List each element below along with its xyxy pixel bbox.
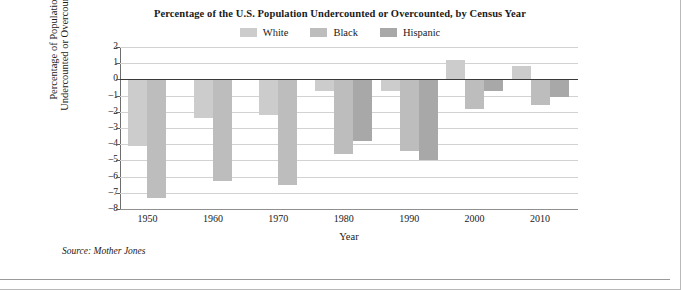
legend-swatch-hispanic bbox=[380, 28, 397, 37]
y-tick-mark bbox=[116, 193, 120, 194]
bar-black-1960 bbox=[213, 79, 232, 181]
bar-white-1970 bbox=[259, 79, 278, 115]
y-axis-title-line2: Undercounted or Overcounted bbox=[59, 0, 70, 135]
legend-label-hispanic: Hispanic bbox=[403, 27, 440, 38]
bar-black-1950 bbox=[147, 79, 166, 197]
footer-divider bbox=[0, 279, 670, 280]
bar-hispanic-1990 bbox=[419, 79, 438, 160]
gridline bbox=[120, 177, 578, 178]
bar-black-2000 bbox=[465, 79, 484, 108]
x-tick-label: 2000 bbox=[453, 213, 497, 224]
y-axis-tick-labels: 210–1–2–3–4–5–6–7–8 bbox=[88, 47, 118, 209]
x-tick-label: 1990 bbox=[387, 213, 431, 224]
bar-black-2010 bbox=[531, 79, 550, 105]
y-tick-mark bbox=[116, 160, 120, 161]
y-tick-label: –7 bbox=[92, 188, 118, 198]
y-tick-mark bbox=[116, 177, 120, 178]
legend-label-black: Black bbox=[333, 27, 358, 38]
y-tick-mark bbox=[116, 47, 120, 48]
y-tick-mark bbox=[116, 96, 120, 97]
source-note: Source: Mother Jones bbox=[62, 246, 146, 256]
plot-area bbox=[120, 47, 578, 209]
bar-black-1980 bbox=[334, 79, 353, 154]
y-tick-mark bbox=[116, 63, 120, 64]
x-tick-label: 1960 bbox=[191, 213, 235, 224]
x-tick-label: 1950 bbox=[125, 213, 169, 224]
gridline bbox=[120, 63, 578, 64]
legend-item-hispanic: Hispanic bbox=[380, 27, 440, 38]
y-tick-label: 0 bbox=[92, 75, 118, 85]
y-tick-label: –5 bbox=[92, 156, 118, 166]
bar-black-1990 bbox=[400, 79, 419, 150]
y-tick-label: –4 bbox=[92, 139, 118, 149]
legend-label-white: White bbox=[263, 27, 289, 38]
y-tick-label: –2 bbox=[92, 107, 118, 117]
legend-swatch-white bbox=[240, 28, 257, 37]
bar-hispanic-2010 bbox=[550, 79, 569, 97]
bar-black-1970 bbox=[278, 79, 297, 184]
y-tick-mark bbox=[116, 209, 120, 210]
y-tick-label: –8 bbox=[92, 204, 118, 214]
chart-figure: Percentage of the U.S. Population Underc… bbox=[0, 0, 681, 290]
bar-white-1960 bbox=[194, 79, 213, 118]
bar-white-2000 bbox=[446, 60, 465, 79]
y-tick-mark bbox=[116, 144, 120, 145]
y-tick-label: 1 bbox=[92, 58, 118, 68]
gridline bbox=[120, 193, 578, 194]
legend-swatch-black bbox=[310, 28, 327, 37]
y-tick-label: 2 bbox=[92, 42, 118, 52]
chart-title: Percentage of the U.S. Population Underc… bbox=[0, 8, 680, 19]
x-tick-label: 1980 bbox=[322, 213, 366, 224]
bar-white-1990 bbox=[381, 79, 400, 90]
y-tick-mark bbox=[116, 128, 120, 129]
legend-item-black: Black bbox=[310, 27, 358, 38]
x-tick-label: 2010 bbox=[518, 213, 562, 224]
gridline bbox=[120, 160, 578, 161]
gridline bbox=[120, 47, 578, 48]
bar-white-2010 bbox=[512, 66, 531, 79]
y-axis-title: Percentage of Population Undercounted or… bbox=[48, 0, 70, 135]
gridline bbox=[120, 79, 578, 80]
bar-hispanic-1980 bbox=[353, 79, 372, 141]
y-tick-label: –6 bbox=[92, 172, 118, 182]
bar-hispanic-2000 bbox=[484, 79, 503, 90]
bar-white-1950 bbox=[128, 79, 147, 145]
y-axis-title-line1: Percentage of Population bbox=[48, 0, 59, 100]
x-tick-label: 1970 bbox=[256, 213, 300, 224]
x-axis-title: Year bbox=[120, 231, 578, 242]
gridline bbox=[120, 209, 578, 210]
y-tick-label: –3 bbox=[92, 123, 118, 133]
chart-legend: White Black Hispanic bbox=[0, 27, 680, 38]
y-tick-mark bbox=[116, 112, 120, 113]
bar-white-1980 bbox=[315, 79, 334, 90]
y-tick-label: –1 bbox=[92, 91, 118, 101]
legend-item-white: White bbox=[240, 27, 289, 38]
